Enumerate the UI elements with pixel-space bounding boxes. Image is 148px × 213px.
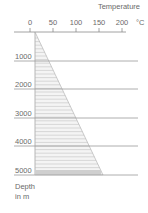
y-axis-title-line1: Depth — [15, 182, 35, 191]
x-tick-label: 200 — [116, 18, 129, 27]
y-tick-label: 1000 — [15, 52, 32, 61]
bottom-shading — [35, 170, 101, 175]
y-tick-label: 4000 — [15, 137, 32, 146]
x-axis-title: Temperature — [98, 2, 140, 11]
x-tick-label: 0 — [28, 18, 32, 27]
x-tick-label: 150 — [93, 18, 106, 27]
y-tick-label: 2000 — [15, 80, 32, 89]
x-tick-labels: 0 50 100 150 200 °C — [28, 18, 145, 27]
x-axis — [14, 28, 126, 32]
temperature-area — [35, 32, 103, 175]
y-tick-label: 5000 — [15, 166, 32, 175]
geothermal-gradient-chart: Temperature 0 50 100 150 200 °C 1000 200… — [0, 0, 148, 213]
x-unit-label: °C — [136, 18, 145, 27]
x-tick-label: 50 — [49, 18, 57, 27]
y-tick-labels: 1000 2000 3000 4000 5000 — [15, 52, 32, 175]
x-tick-label: 100 — [70, 18, 83, 27]
y-axis-title-line2: in m — [15, 192, 29, 201]
y-tick-label: 3000 — [15, 109, 32, 118]
